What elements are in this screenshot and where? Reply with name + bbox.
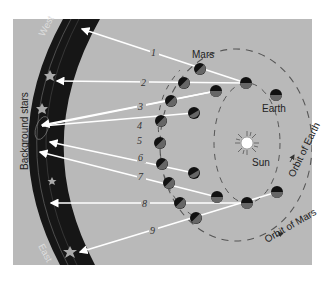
mars-label: Mars (192, 49, 214, 60)
sightline-label-3: 3 (137, 101, 143, 112)
sightline-label-5: 5 (137, 135, 142, 146)
earth-label: Earth (262, 103, 286, 114)
sightline-label-1: 1 (151, 47, 156, 58)
sightline-label-2: 2 (141, 77, 146, 88)
sightline-label-8: 8 (142, 198, 147, 209)
background-stars-label: Background stars (19, 92, 30, 170)
sightline-label-6: 6 (138, 152, 143, 163)
sightline-label-9: 9 (150, 225, 155, 236)
sightline-label-4: 4 (137, 120, 142, 131)
sun-label: Sun (252, 157, 270, 168)
mars-retrograde-diagram: 1 2 3 4 5 6 7 8 9 Mars Earth Sun Orbit o… (0, 0, 330, 281)
sun-icon (235, 131, 259, 155)
